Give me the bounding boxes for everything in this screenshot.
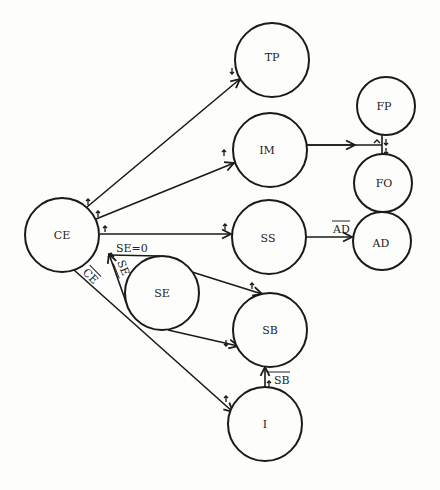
edge-label-ce-bar: CE [80,265,102,287]
node-i: I [228,387,302,461]
tick-ce-ss [103,226,107,232]
edge-label-se-zero: SE=0 [116,242,148,255]
tick-ss [223,224,227,230]
node-fp: FP [357,77,415,135]
svg-text:SB: SB [274,374,290,387]
node-label-tp: TP [265,51,280,64]
edge-ce-tp [87,79,240,207]
svg-text:AD: AD [332,223,350,236]
node-label-im: IM [259,144,275,157]
node-label-ad: AD [372,237,390,250]
node-label-fo: FO [376,177,393,190]
node-label-fp: FP [376,100,392,113]
tick-tp [230,68,234,74]
node-label-i: I [263,418,267,431]
edge-label-sb-bar: SB [268,372,290,387]
node-fo: FO [354,154,412,212]
edge-ce-im [96,163,234,219]
tick-fp [384,139,388,145]
node-ce: CE [25,198,99,272]
node-ad: AD [353,212,411,270]
node-label-ce: CE [54,229,70,242]
tick-i [224,396,228,402]
node-label-sb: SB [262,324,278,337]
tick-fp-left [374,140,380,143]
node-ss: SS [232,200,306,274]
node-label-ss: SS [261,232,276,245]
node-tp: TP [235,23,309,97]
tick-sb-upper [250,283,254,289]
svg-text:CE: CE [80,266,101,287]
node-sb: SB [233,293,307,367]
tick-ce-im [96,211,100,217]
edge-label-ad-bar: AD [332,221,350,236]
state-transition-diagram: CE TP IM FP FO SS AD SE SB I SE=0 SE [0,0,440,490]
node-label-se: SE [154,287,170,300]
node-se: SE [125,256,199,330]
node-im: IM [233,113,307,187]
edge-ce-se-zero [108,255,160,256]
tick-im [222,150,226,156]
